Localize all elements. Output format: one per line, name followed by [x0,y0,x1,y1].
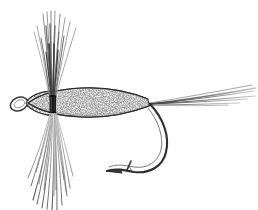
thread-wrap [49,96,57,113]
fishing-fly-drawing [0,0,258,210]
illustration-canvas: Artificial fishing fly (dry fly) line dr… [0,0,258,210]
